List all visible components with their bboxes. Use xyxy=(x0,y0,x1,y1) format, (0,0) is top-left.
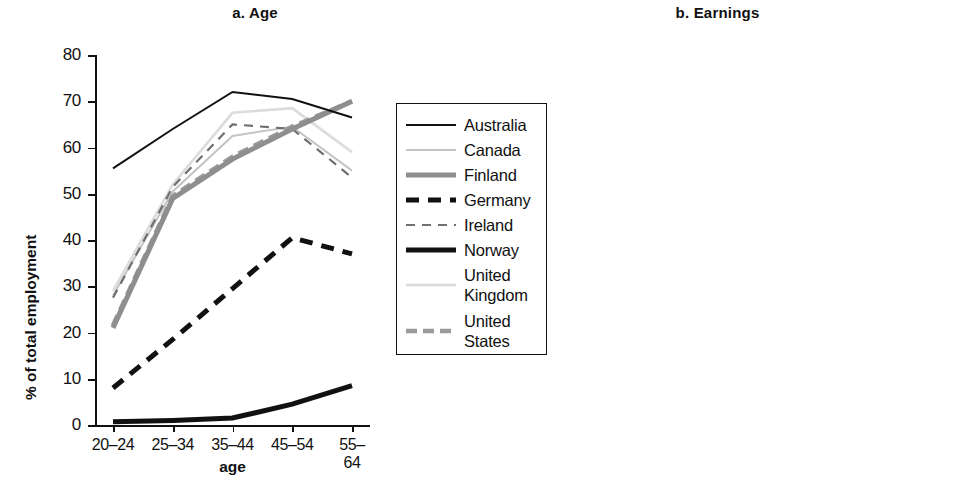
legend-item-finland[interactable]: Finland xyxy=(397,162,546,187)
legend-label: Finland xyxy=(457,165,517,185)
legend-item-norway[interactable]: Norway xyxy=(397,237,546,262)
legend-label: Germany xyxy=(457,190,530,210)
panel-b-title: b. Earnings xyxy=(470,4,955,21)
y-tick-label: 20 xyxy=(47,323,81,343)
legend-swatch-icon xyxy=(405,143,457,157)
legend-item-ireland[interactable]: Ireland xyxy=(397,212,546,237)
legend-swatch-icon xyxy=(405,193,457,207)
y-tick-label: 80 xyxy=(47,45,81,65)
y-tick xyxy=(88,240,95,242)
y-tick-label: 60 xyxy=(47,138,81,158)
x-tick-label: 35–44 xyxy=(211,436,254,454)
legend-swatch-icon xyxy=(405,168,457,182)
y-tick xyxy=(88,148,95,150)
legend-label: UnitedKingdom xyxy=(457,265,528,305)
legend-label: Australia xyxy=(457,115,526,135)
legend-swatch-icon xyxy=(405,278,457,292)
legend-label: Canada xyxy=(457,140,521,160)
legend-item-germany[interactable]: Germany xyxy=(397,187,546,212)
panel-a-y-axis-label: % of total employment xyxy=(22,235,40,400)
legend-swatch-icon xyxy=(405,118,457,132)
legend-item-canada[interactable]: Canada xyxy=(397,137,546,162)
y-tick xyxy=(88,194,95,196)
legend-item-united-states[interactable]: UnitedStates xyxy=(397,308,546,354)
x-tick xyxy=(173,425,175,432)
legend-swatch-icon xyxy=(405,324,457,338)
y-tick xyxy=(88,333,95,335)
y-tick-label: 0 xyxy=(47,415,81,435)
y-tick xyxy=(88,286,95,288)
y-tick-label: 30 xyxy=(47,276,81,296)
legend-label: Ireland xyxy=(457,215,513,235)
y-tick-label: 10 xyxy=(47,369,81,389)
series-line-norway xyxy=(113,386,352,422)
panel-a-plot-area: 0102030405060708020–2425–3435–4445–5455–… xyxy=(95,55,370,425)
y-tick xyxy=(88,425,95,427)
series-line-germany xyxy=(113,238,352,388)
panel-a-series-lines xyxy=(95,55,370,427)
legend: AustraliaCanadaFinlandGermanyIrelandNorw… xyxy=(396,103,547,355)
figure-root: a. Age % of total employment age 0102030… xyxy=(0,0,955,482)
legend-item-australia[interactable]: Australia xyxy=(397,112,546,137)
x-tick-label: 55–64 xyxy=(339,436,365,472)
x-tick xyxy=(113,425,115,432)
legend-swatch-icon xyxy=(405,243,457,257)
legend-swatch-icon xyxy=(405,218,457,232)
x-tick-label: 20–24 xyxy=(92,436,135,454)
x-tick xyxy=(292,425,294,432)
y-tick xyxy=(88,379,95,381)
x-tick xyxy=(352,425,354,432)
y-tick-label: 50 xyxy=(47,184,81,204)
y-tick xyxy=(88,55,95,57)
legend-label: UnitedStates xyxy=(457,311,511,351)
series-line-ireland xyxy=(113,124,352,297)
x-tick xyxy=(233,425,235,432)
y-tick-label: 70 xyxy=(47,91,81,111)
series-line-canada xyxy=(113,127,352,296)
series-line-united-states xyxy=(113,101,352,325)
x-tick-label: 45–54 xyxy=(271,436,314,454)
panel-a-title: a. Age xyxy=(0,4,470,21)
y-tick-label: 40 xyxy=(47,230,81,250)
legend-label: Norway xyxy=(457,240,519,260)
x-tick-label: 25–34 xyxy=(152,436,195,454)
legend-item-united-kingdom[interactable]: UnitedKingdom xyxy=(397,262,546,308)
y-tick xyxy=(88,101,95,103)
panel-a-x-axis-label: age xyxy=(95,458,370,476)
